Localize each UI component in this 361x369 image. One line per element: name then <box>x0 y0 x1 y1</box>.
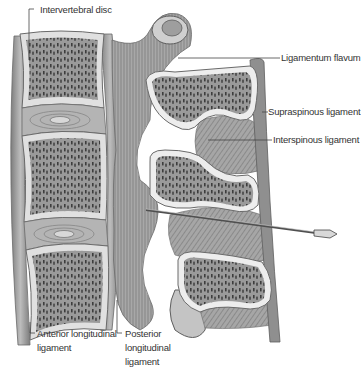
vertebral-body-upper <box>20 31 104 108</box>
vertebral-body-middle <box>22 131 107 222</box>
label-supraspinous-ligament: Supraspinous ligament <box>268 106 360 117</box>
label-ligamentum-flavum: Ligamentum flavum <box>281 52 361 63</box>
spinous-process-lower <box>178 252 271 312</box>
label-anterior-longitudinal-ligament: Anterior longitudinal ligament <box>37 327 117 355</box>
label-interspinous-ligament: Interspinous ligament <box>273 134 359 145</box>
spinous-process-upper <box>146 66 258 130</box>
label-intervertebral-disc: Intervertebral disc <box>40 4 112 15</box>
label-posterior-longitudinal-ligament: Posterior longitudinal ligament <box>125 327 205 369</box>
vertebral-body-lower <box>26 244 109 340</box>
